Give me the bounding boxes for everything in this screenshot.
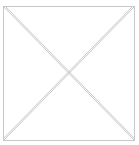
image-placeholder bbox=[0, 0, 139, 145]
crossed-box-icon bbox=[0, 0, 139, 145]
